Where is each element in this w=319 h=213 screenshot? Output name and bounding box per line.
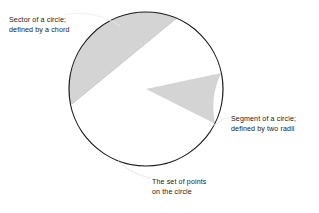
label-segment-of-a-circle: Segment of a circle; defined by two radi… xyxy=(231,114,296,134)
label-points-line2: on the circle xyxy=(152,187,207,197)
label-sector-line2: defined by a chord xyxy=(9,25,70,35)
label-sector-of-a-circle: Sector of a circle; defined by a chord xyxy=(9,15,70,35)
label-segment-line1: Segment of a circle; xyxy=(231,114,296,124)
label-set-of-points: The set of points on the circle xyxy=(152,177,207,197)
label-points-line1: The set of points xyxy=(152,177,207,187)
label-sector-line1: Sector of a circle; xyxy=(9,15,70,25)
circle-diagram: Sector of a circle; defined by a chord S… xyxy=(0,0,319,213)
label-segment-line2: defined by two radii xyxy=(231,124,296,134)
